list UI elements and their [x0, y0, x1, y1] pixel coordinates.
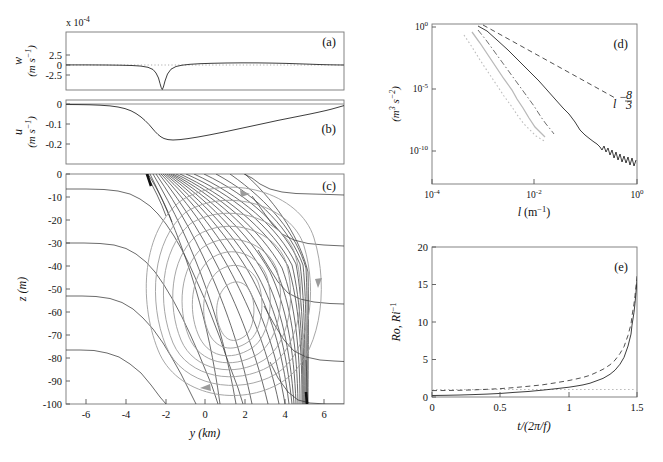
svg-text:l: l	[613, 97, 617, 111]
panel-c-xlabel: y (km)	[189, 426, 220, 440]
panel-c-xtick-label-2: -2	[162, 409, 171, 420]
panel-c-xtick-label-6: 6	[321, 409, 326, 420]
panel-c-ytick-label-9: -90	[48, 376, 62, 387]
panel-d-frame	[432, 24, 637, 184]
panel-d-ytick-label-1: 10-5	[413, 82, 429, 94]
cross-contour	[148, 174, 172, 222]
svg-text:(m s−1): (m s−1)	[24, 116, 38, 148]
panel-d-slope-annotation: l − 8 3	[613, 88, 632, 112]
panel-c-ytick-label-6: -60	[48, 307, 62, 318]
panel-a: 2.5 0 -2.5 x 10-4 w (m s−1) (a)	[11, 15, 344, 90]
panel-d-spectrum-gray	[472, 32, 545, 137]
panel-e-curve-ro	[432, 281, 637, 396]
panel-b-curve-u	[66, 105, 344, 141]
panel-b-label: (b)	[321, 122, 336, 136]
panel-e-label: (e)	[614, 260, 628, 274]
panel-a-y-multiplier: x 10-4	[66, 15, 90, 28]
panel-e-yaxis: 0 5 10 15 20	[418, 242, 437, 403]
panel-b-ytick-label-1: -0.1	[45, 119, 62, 130]
panel-c-xtick-label-1: -4	[122, 409, 131, 420]
panel-c-ytick-label-0: 0	[57, 169, 62, 180]
panel-a-frame	[66, 32, 344, 90]
panel-c-ytick-label-5: -50	[48, 284, 62, 295]
panel-c-ytick-label-3: -30	[48, 238, 62, 249]
panel-d-ylabel: (m3 s−2)	[388, 86, 402, 122]
panel-c-ytick-label-2: -20	[48, 215, 62, 226]
panel-b-ytick-label-0: 0	[57, 99, 62, 110]
panel-c-xaxis: -6 -4 -2 0 2 4 6	[82, 399, 327, 420]
panel-c-xtick-label-3: 0	[202, 409, 207, 420]
figure-canvas: 2.5 0 -2.5 x 10-4 w (m s−1) (a) 0 -0.1 -…	[0, 0, 663, 462]
panel-d-xlabel: l (m−1)	[518, 204, 551, 219]
panel-d-ytick-label-0: 100	[415, 20, 429, 32]
panel-c-ylabel: z (m)	[15, 277, 29, 302]
panel-e-ytick-label-4: 20	[418, 242, 429, 253]
panel-c-ytick-label-4: -40	[48, 261, 62, 272]
panel-e-ytick-label-3: 15	[418, 279, 429, 290]
panel-d-label: (d)	[613, 37, 628, 51]
panel-c-xtick-label-0: -6	[82, 409, 91, 420]
cross-contour	[159, 174, 268, 404]
panel-a-curve-w	[66, 63, 344, 90]
panel-b-ylabel: u (m s−1)	[11, 116, 38, 148]
panel-e-ylabel: Ro, Ri−1	[388, 302, 403, 342]
panel-c-xtick-label-4: 2	[242, 409, 247, 420]
front-edge-mark	[306, 392, 307, 404]
svg-text:w: w	[11, 57, 25, 65]
panel-e-ytick-label-0: 0	[423, 392, 428, 403]
cross-contour	[186, 174, 303, 404]
panel-c-ytick-label-8: -80	[48, 353, 62, 364]
panel-e-xtick-label-1: 0.5	[493, 402, 506, 413]
panel-a-ytick-label-2: -2.5	[45, 70, 62, 81]
panel-e-xlabel: t/(2π/f)	[517, 419, 550, 433]
panel-d: 100 10-5 10-10 10-4 10-2 100 l (m−1) (m3…	[388, 20, 644, 219]
isopycnal	[66, 350, 166, 404]
panel-d-reference-slope	[483, 25, 617, 99]
panel-d-ytick-label-2: 10-10	[409, 144, 428, 156]
panel-d-series	[464, 25, 636, 166]
cross-contour	[204, 174, 305, 404]
panel-c: 0 -10 -20 -30 -40 -50 -60 -70 -80 -90 -1…	[15, 169, 344, 441]
panel-b-frame	[66, 100, 344, 164]
panel-e-xtick-label-0: 0	[429, 402, 434, 413]
circulation-cells	[146, 187, 321, 395]
panel-b-ytick-label-2: -0.2	[45, 139, 62, 150]
panel-c-xtick-label-5: 4	[282, 409, 288, 420]
panel-c-label: (c)	[322, 179, 336, 193]
cross-contour	[150, 174, 220, 404]
svg-text:3: 3	[625, 98, 632, 112]
flow-arrow-icon	[315, 278, 322, 288]
svg-text:u: u	[11, 129, 25, 135]
panel-c-contours	[66, 174, 344, 404]
panel-e: 0 5 10 15 20 0 0.5 1 1.5 t/(2π/f) Ro, Ri…	[388, 242, 644, 434]
panel-e-ytick-label-1: 5	[423, 354, 428, 365]
isopycnal	[66, 243, 218, 404]
panel-e-series	[432, 276, 637, 395]
panel-b: 0 -0.1 -0.2 u (m s−1) (b)	[11, 99, 344, 165]
panel-e-ytick-label-2: 10	[418, 317, 429, 328]
panel-c-ytick-label-1: -10	[48, 192, 62, 203]
panel-a-ylabel: w (m s−1)	[11, 45, 38, 77]
panel-a-label: (a)	[322, 35, 336, 49]
svg-text:(m s−1): (m s−1)	[24, 45, 38, 77]
panel-e-xtick-label-2: 1	[566, 402, 571, 413]
flow-arrow-icon	[240, 190, 250, 197]
panel-c-ytick-label-7: -70	[48, 330, 62, 341]
panel-d-spectrum-dashdot	[478, 30, 554, 134]
panel-d-xaxis: 10-4 10-2 100	[424, 179, 644, 200]
panel-e-curve-ri-inverse	[432, 276, 637, 390]
panel-e-xtick-label-3: 1.5	[630, 402, 643, 413]
panel-c-ytick-label-10: -100	[43, 399, 62, 410]
panel-d-xtick-label-0: 10-4	[424, 188, 440, 200]
panel-e-frame	[432, 247, 637, 397]
figure-svg: 2.5 0 -2.5 x 10-4 w (m s−1) (a) 0 -0.1 -…	[0, 0, 663, 462]
panel-d-xtick-label-1: 10-2	[526, 188, 542, 200]
panel-d-xtick-label-2: 100	[631, 188, 645, 200]
